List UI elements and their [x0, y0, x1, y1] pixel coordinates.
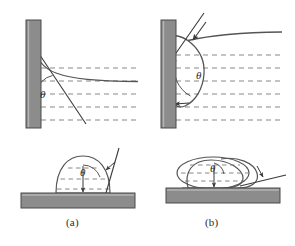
angle-label-b-top: θ — [196, 69, 202, 81]
contact-arrow-lower-b — [175, 103, 189, 104]
panel-caption-b: (b) — [205, 216, 218, 228]
panel-b-bottom-view: θ — [166, 157, 286, 203]
angle-label-b-bottom: θ — [210, 162, 216, 174]
figure-canvas: θ — [0, 0, 295, 246]
panel-a-top-view: θ — [26, 20, 138, 128]
tangent-line-a-bottom — [106, 148, 119, 193]
panel-b-top-view: θ — [161, 13, 282, 128]
liquid-fill-dashes-b-top — [176, 55, 280, 120]
panel-a-bottom-view: θ — [21, 148, 135, 208]
panel-caption-a: (a) — [66, 216, 79, 228]
contact-angle-arc-b-top — [174, 60, 190, 96]
meniscus-flat-tail-b — [188, 32, 282, 41]
angle-label-a-top: θ — [40, 88, 46, 100]
liquid-fill-dashes-a-top — [41, 68, 138, 120]
tangent-line-b-top — [174, 13, 204, 56]
meniscus-curve-a — [32, 42, 138, 82]
angle-label-a-bottom: θ — [80, 166, 86, 178]
contact-angle-figure: θ — [0, 0, 295, 246]
